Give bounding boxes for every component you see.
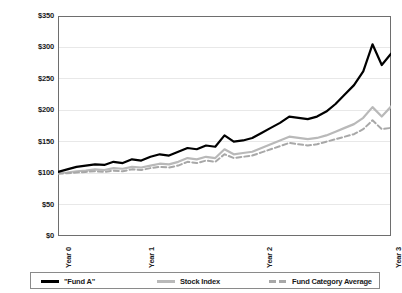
y-axis-tick-label: $0 [2, 232, 54, 240]
legend: "Fund A" Stock Index Fund Category Avera… [30, 272, 380, 289]
y-axis-tick-label: $200 [2, 106, 54, 114]
x-axis-tick-label: Year 2 [265, 247, 274, 268]
y-axis-tick-label: $300 [2, 43, 54, 51]
y-axis: $350 $300 $250 $200 $150 $100 $50 $0 [0, 0, 54, 293]
y-axis-tick-label: $350 [2, 12, 54, 20]
legend-swatch-fund-category-average [269, 280, 287, 283]
growth-of-investment-chart: $350 $300 $250 $200 $150 $100 $50 $0 Yea… [0, 0, 402, 293]
plot-area [58, 16, 391, 236]
legend-label: Stock Index [180, 277, 220, 286]
x-axis-tick-label: Year 3 [394, 247, 402, 268]
axis-lines [58, 16, 391, 236]
y-axis-tick-label: $50 [2, 201, 54, 209]
legend-item-fund-category-average: Fund Category Average [269, 273, 372, 290]
legend-swatch-stock-index [157, 280, 175, 283]
y-axis-tick-label: $100 [2, 169, 54, 177]
x-axis-tick-label: Year 1 [147, 247, 156, 268]
legend-label: "Fund A" [64, 277, 95, 286]
plot-svg [58, 16, 391, 236]
series-lines [58, 44, 391, 173]
legend-label: Fund Category Average [292, 277, 372, 286]
legend-item-stock-index: Stock Index [157, 273, 220, 290]
gridlines [58, 16, 391, 205]
y-axis-tick-label: $150 [2, 138, 54, 146]
x-axis-tick-label: Year 0 [64, 247, 73, 268]
series-line [58, 44, 391, 172]
legend-item-fund-a: "Fund A" [41, 273, 95, 290]
legend-swatch-fund-a [41, 280, 59, 283]
y-axis-tick-label: $250 [2, 75, 54, 83]
